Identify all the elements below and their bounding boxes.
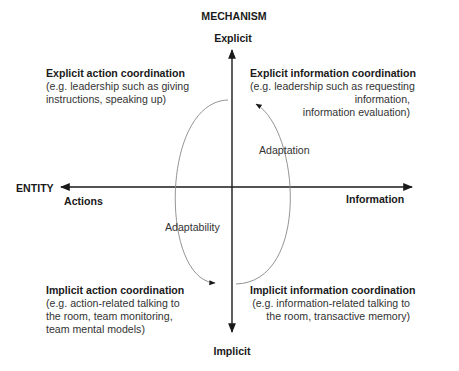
- quadrant-example-line: information evaluation): [250, 106, 410, 119]
- adaptation-label: Adaptation: [259, 144, 310, 157]
- quadrant-explicit-information: Explicit information coordination (e.g. …: [250, 67, 410, 119]
- quadrant-example-line: (e.g. leadership such as requesting: [250, 80, 410, 93]
- implicit-label: Implicit: [204, 345, 260, 358]
- quadrant-title: Explicit information coordination: [250, 67, 410, 80]
- adaptation-arc: [236, 104, 290, 284]
- quadrant-title: Implicit action coordination: [46, 284, 184, 297]
- information-label: Information: [346, 193, 404, 206]
- quadrant-example-line: information,: [250, 93, 410, 106]
- entity-axis-title: ENTITY: [16, 182, 54, 195]
- adaptability-label: Adaptability: [165, 221, 220, 234]
- quadrant-example-line: (e.g. leadership such as giving: [46, 80, 189, 93]
- explicit-label: Explicit: [206, 32, 260, 45]
- adaptability-arc: [175, 100, 228, 283]
- quadrant-title: Implicit information coordination: [250, 284, 410, 297]
- quadrant-implicit-information: Implicit information coordination (e.g. …: [250, 284, 410, 323]
- quadrant-title: Explicit action coordination: [46, 67, 189, 80]
- quadrant-example-line: team mental models): [46, 323, 184, 336]
- mechanism-axis-title: MECHANISM: [196, 10, 272, 23]
- actions-label: Actions: [64, 195, 103, 208]
- quadrant-example-line: the room, transactive memory): [250, 310, 410, 323]
- quadrant-example-line: the room, team monitoring,: [46, 310, 184, 323]
- quadrant-example-line: (e.g. action-related talking to: [46, 297, 184, 310]
- quadrant-implicit-action: Implicit action coordination (e.g. actio…: [46, 284, 184, 336]
- quadrant-example-line: (e.g. information-related talking to: [250, 297, 410, 310]
- quadrant-example-line: instructions, speaking up): [46, 93, 189, 106]
- quadrant-explicit-action: Explicit action coordination (e.g. leade…: [46, 67, 189, 106]
